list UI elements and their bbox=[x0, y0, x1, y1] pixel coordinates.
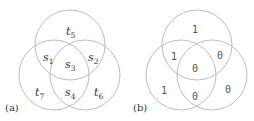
panel-b: 1 1 0 0 1 0 0 (b) bbox=[133, 10, 247, 113]
panel-tag-a: (a) bbox=[5, 102, 19, 113]
right-circle-a bbox=[50, 40, 120, 110]
region-t6: t6 bbox=[94, 86, 103, 101]
value-top-left: 1 bbox=[171, 51, 177, 62]
venn-diagrams: t5 s1 s2 s3 t7 s4 t6 (a) 1 1 0 0 1 0 0 (… bbox=[0, 0, 254, 121]
region-t7: t7 bbox=[35, 86, 44, 101]
left-circle-b bbox=[146, 40, 216, 110]
value-center: 0 bbox=[192, 63, 198, 74]
region-s3: s3 bbox=[65, 58, 76, 73]
right-circle-b bbox=[177, 40, 247, 110]
region-s2: s2 bbox=[88, 51, 99, 66]
panel-tag-b: (b) bbox=[133, 102, 147, 113]
region-s4: s4 bbox=[65, 86, 76, 101]
value-top: 1 bbox=[192, 24, 198, 35]
value-bottom: 0 bbox=[192, 91, 198, 102]
panel-a: t5 s1 s2 s3 t7 s4 t6 (a) bbox=[5, 10, 120, 113]
value-right: 0 bbox=[225, 84, 231, 95]
value-top-right: 0 bbox=[217, 50, 223, 61]
left-circle-a bbox=[19, 40, 89, 110]
value-left: 1 bbox=[161, 85, 167, 96]
region-s1: s1 bbox=[43, 51, 53, 66]
region-t5: t5 bbox=[66, 25, 75, 40]
